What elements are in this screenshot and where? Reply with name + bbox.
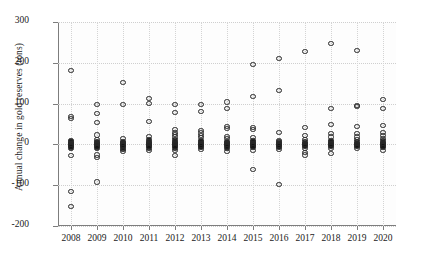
gridline-x — [71, 22, 72, 226]
y-tick-label: 0 — [0, 137, 29, 147]
data-point — [380, 97, 385, 102]
gridline-x — [201, 22, 202, 226]
x-tick-mark — [149, 226, 150, 230]
data-point — [276, 130, 281, 135]
data-point — [120, 80, 125, 85]
y-tick-label: -100 — [0, 178, 29, 188]
data-point — [328, 122, 333, 127]
data-point — [354, 48, 359, 53]
data-point — [224, 99, 229, 104]
data-point — [94, 155, 99, 160]
y-tick-mark — [53, 226, 58, 227]
x-tick-label: 2020 — [363, 233, 403, 243]
x-tick-mark — [175, 226, 176, 230]
gridline-x — [279, 22, 280, 226]
data-point — [172, 148, 177, 153]
data-point — [250, 148, 255, 153]
y-tick-label: -200 — [0, 219, 29, 229]
data-point — [68, 116, 73, 121]
data-point — [250, 94, 255, 99]
x-tick-mark — [305, 226, 306, 230]
data-point — [302, 49, 307, 54]
data-point — [94, 120, 99, 125]
data-point — [94, 179, 99, 184]
data-point — [250, 127, 255, 132]
data-point — [68, 189, 73, 194]
y-tick-mark — [53, 144, 58, 145]
y-tick-mark — [53, 104, 58, 105]
data-point — [146, 101, 151, 106]
data-point — [94, 145, 99, 150]
y-tick-mark — [53, 185, 58, 186]
data-point — [94, 111, 99, 116]
y-tick-label: 300 — [0, 15, 29, 25]
y-tick-label: 100 — [0, 97, 29, 107]
data-point — [380, 148, 385, 153]
data-point — [276, 147, 281, 152]
data-point — [68, 204, 73, 209]
data-point — [198, 109, 203, 114]
y-axis-label: Annual change in gold reserves (tons) — [14, 11, 24, 223]
data-point — [328, 151, 333, 156]
x-tick-mark — [253, 226, 254, 230]
y-tick-mark — [53, 22, 58, 23]
data-point — [354, 145, 359, 150]
data-point — [302, 152, 307, 157]
x-tick-mark — [383, 226, 384, 230]
data-point — [146, 119, 151, 124]
data-point — [224, 106, 229, 111]
data-point — [276, 182, 281, 187]
gridline-x — [175, 22, 176, 226]
data-point — [172, 102, 177, 107]
data-point — [380, 123, 385, 128]
x-tick-mark — [97, 226, 98, 230]
data-point — [354, 104, 359, 109]
gridline-x — [123, 22, 124, 226]
data-point — [198, 102, 203, 107]
x-tick-mark — [331, 226, 332, 230]
data-point — [250, 62, 255, 67]
data-point — [328, 106, 333, 111]
data-point — [172, 153, 177, 158]
data-point — [120, 148, 125, 153]
data-point — [302, 125, 307, 130]
x-tick-mark — [71, 226, 72, 230]
data-point — [380, 106, 385, 111]
y-axis-spine — [58, 22, 59, 226]
data-point — [68, 153, 73, 158]
x-tick-mark — [279, 226, 280, 230]
x-tick-mark — [201, 226, 202, 230]
data-point — [172, 110, 177, 115]
data-point — [68, 146, 73, 151]
y-tick-mark — [53, 63, 58, 64]
data-point — [120, 102, 125, 107]
data-point — [224, 126, 229, 131]
x-tick-mark — [227, 226, 228, 230]
data-point — [68, 68, 73, 73]
y-tick-label: 200 — [0, 56, 29, 66]
data-point — [198, 147, 203, 152]
data-point — [328, 41, 333, 46]
plot-area — [58, 22, 396, 226]
data-point — [94, 102, 99, 107]
x-tick-mark — [357, 226, 358, 230]
data-point — [276, 88, 281, 93]
data-point — [250, 167, 255, 172]
data-point — [276, 56, 281, 61]
data-point — [354, 124, 359, 129]
x-tick-mark — [123, 226, 124, 230]
scatter-chart-figure: Annual change in gold reserves (tons) 30… — [0, 0, 433, 269]
data-point — [146, 148, 151, 153]
data-point — [224, 149, 229, 154]
